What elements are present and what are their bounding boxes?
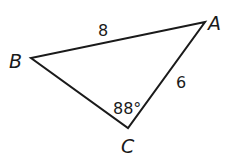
triangle-diagram: A B C 8 6 88° bbox=[0, 0, 227, 158]
vertex-label-a: A bbox=[206, 12, 221, 34]
vertex-label-c: C bbox=[121, 135, 135, 157]
vertex-label-b: B bbox=[9, 50, 22, 72]
side-label-ab: 8 bbox=[98, 21, 108, 40]
angle-label-c: 88° bbox=[113, 99, 141, 118]
triangle-svg: A B C 8 6 88° bbox=[0, 0, 227, 158]
side-label-ac: 6 bbox=[176, 73, 186, 92]
